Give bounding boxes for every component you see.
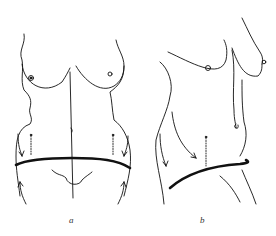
panel-a-drawing (16, 34, 131, 204)
panel-label-b: b (200, 215, 205, 225)
torso-drawings (0, 0, 276, 236)
diagram-figure: a b (0, 0, 276, 236)
panel-b-drawing (156, 18, 266, 204)
panel-label-a: a (69, 215, 74, 225)
